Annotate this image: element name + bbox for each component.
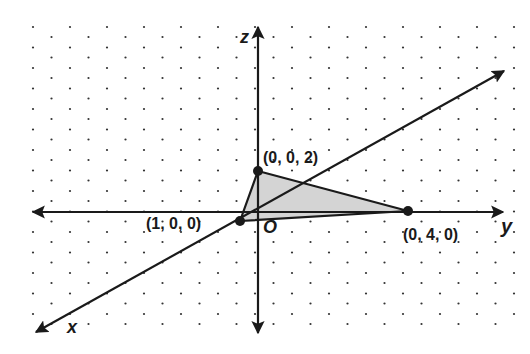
label-origin: O — [263, 217, 277, 237]
label-z-axis: z — [239, 27, 249, 47]
coordinate-diagram: (0, 0, 2) (1, 0, 0) (0, 4, 0) z y x O — [0, 0, 530, 354]
x-axis — [36, 71, 504, 332]
point-y — [403, 206, 413, 216]
label-point-y: (0, 4, 0) — [403, 226, 458, 243]
point-x — [235, 216, 245, 226]
label-point-x: (1, 0, 0) — [146, 215, 201, 232]
label-x-axis: x — [66, 317, 78, 337]
label-point-z: (0, 0, 2) — [263, 149, 318, 166]
point-z — [253, 166, 263, 176]
label-y-axis: y — [500, 215, 513, 237]
